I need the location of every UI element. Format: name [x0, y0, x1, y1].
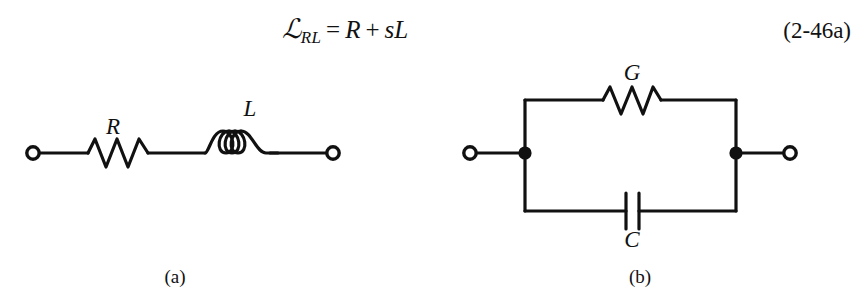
terminal-left-circle-a [27, 147, 39, 159]
component-label-g: G [624, 60, 641, 85]
equation-expression: ℒRL=R+sL [0, 12, 690, 55]
equals-sign: = [321, 16, 345, 43]
script-l-symbol: ℒ [282, 13, 301, 44]
terminal-right-circle-b [784, 147, 796, 159]
inductor-coil-exit [241, 131, 278, 153]
terminal-left-circle-b [464, 147, 476, 159]
component-label-l: L [243, 96, 257, 121]
circuit-diagram-b: G C [440, 60, 840, 250]
junction-dot-right [729, 146, 742, 159]
term-r: R [345, 16, 360, 43]
equation-subscript: RL [301, 28, 321, 47]
circuit-diagram-a: R L [0, 60, 380, 250]
caption-b: (b) [580, 265, 700, 289]
component-label-r: R [105, 114, 120, 139]
caption-a: (a) [115, 265, 235, 289]
equation-number: (2-46a) [783, 14, 851, 48]
figure-root: ℒRL=R+sL (2-46a) [0, 0, 867, 306]
plus-sign: + [360, 16, 384, 43]
equation-row: ℒRL=R+sL (2-46a) [0, 12, 867, 52]
term-s: s [385, 16, 395, 43]
resistor-symbol-g [603, 87, 661, 114]
component-label-c: C [624, 227, 640, 250]
terminal-right-circle-a [327, 147, 339, 159]
junction-dot-left [518, 146, 531, 159]
term-l: L [394, 16, 408, 43]
resistor-symbol-r [88, 139, 148, 167]
